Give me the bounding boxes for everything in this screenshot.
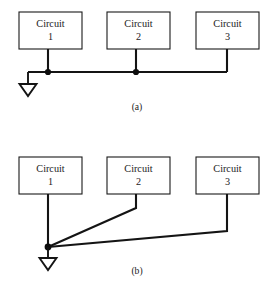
circuit-box-a2-number: 2 (136, 31, 141, 42)
panel-a: Circuit 1 Circuit 2 Circuit 3 (19, 12, 259, 113)
circuit-box-a3-name: Circuit (213, 18, 241, 29)
circuit-box-a1-name: Circuit (36, 18, 64, 29)
ground-return-wire-b3 (48, 194, 227, 247)
circuit-box-a2-name: Circuit (124, 18, 152, 29)
circuit-box-b2-number: 2 (136, 176, 141, 187)
ground-return-wire-b2 (48, 194, 136, 247)
ground-triangle-b (40, 258, 57, 270)
circuit-box-a3: Circuit 3 (196, 12, 259, 49)
circuit-box-b1-name: Circuit (36, 163, 64, 174)
grounding-diagram-canvas: Circuit 1 Circuit 2 Circuit 3 (0, 0, 273, 289)
circuit-box-b1: Circuit 1 (19, 157, 82, 194)
junction-dot-a2 (133, 69, 139, 75)
circuit-box-a1-number: 1 (48, 31, 53, 42)
circuit-box-b3: Circuit 3 (196, 157, 259, 194)
circuit-box-a3-number: 3 (225, 31, 230, 42)
circuit-box-b3-name: Circuit (213, 163, 241, 174)
circuit-box-b2-name: Circuit (124, 163, 152, 174)
circuit-box-a2: Circuit 2 (107, 12, 170, 49)
ground-triangle-a (20, 84, 37, 96)
circuit-box-b1-number: 1 (48, 176, 53, 187)
junction-dot-a1 (45, 69, 51, 75)
circuit-box-a1: Circuit 1 (19, 12, 82, 49)
ground-symbol-a (20, 72, 37, 96)
ground-symbol-b (40, 247, 57, 270)
circuit-box-b3-number: 3 (225, 176, 230, 187)
panel-b-caption: (b) (131, 265, 142, 277)
figure-root: Circuit 1 Circuit 2 Circuit 3 (0, 0, 273, 289)
panel-b: Circuit 1 Circuit 2 Circuit 3 (19, 157, 259, 277)
panel-a-caption: (a) (132, 101, 143, 113)
circuit-box-b2: Circuit 2 (107, 157, 170, 194)
